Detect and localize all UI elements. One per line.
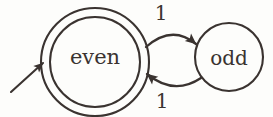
state-label-odd: odd — [198, 48, 260, 68]
state-label-even: even — [54, 47, 136, 68]
fsm-diagram-canvas: even odd 1 1 — [0, 0, 273, 117]
transition-even-to-odd-arrow — [146, 35, 196, 47]
transition-label-even-to-odd: 1 — [145, 3, 177, 23]
start-arrow — [11, 63, 43, 92]
transition-odd-to-even-arrow — [147, 74, 201, 86]
transition-label-odd-to-even: 1 — [146, 91, 178, 111]
